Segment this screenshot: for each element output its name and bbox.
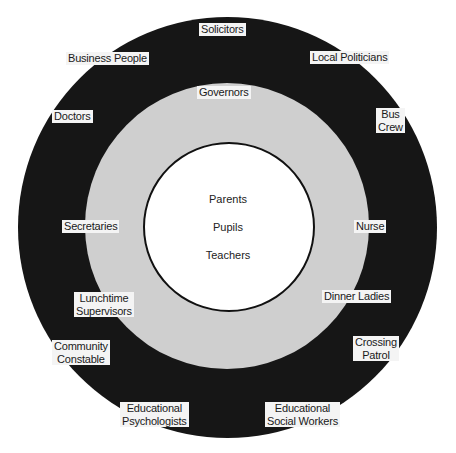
- label-educational-social-workers: Educational Social Workers: [265, 402, 340, 427]
- label-local-politicians: Local Politicians: [310, 51, 389, 64]
- inner-item-pupils: Pupils: [178, 221, 278, 233]
- label-line: Crossing: [355, 336, 397, 349]
- label-community-constable: Community Constable: [52, 340, 110, 365]
- label-line: Patrol: [355, 349, 397, 362]
- label-nurse: Nurse: [354, 220, 386, 233]
- inner-item-teachers: Teachers: [178, 249, 278, 261]
- label-governors: Governors: [197, 86, 251, 99]
- label-business-people: Business People: [66, 52, 149, 65]
- label-doctors: Doctors: [52, 110, 93, 123]
- label-line: Psychologists: [122, 415, 187, 428]
- label-line: Lunchtime: [76, 292, 132, 305]
- label-line: Constable: [54, 353, 108, 366]
- label-line: Educational: [122, 402, 187, 415]
- label-line: Community: [54, 340, 108, 353]
- label-bus-crew: Bus Crew: [376, 108, 405, 133]
- label-dinner-ladies: Dinner Ladies: [322, 290, 391, 303]
- label-solicitors: Solicitors: [199, 23, 246, 36]
- label-lunchtime-supervisors: Lunchtime Supervisors: [74, 292, 134, 317]
- label-line: Educational: [267, 402, 338, 415]
- label-line: Supervisors: [76, 305, 132, 318]
- label-secretaries: Secretaries: [62, 220, 119, 233]
- label-line: Social Workers: [267, 415, 338, 428]
- stakeholder-diagram: Parents Pupils Teachers Governors Secret…: [0, 0, 456, 453]
- label-educational-psychologists: Educational Psychologists: [120, 402, 189, 427]
- label-line: Crew: [378, 121, 403, 134]
- inner-item-parents: Parents: [178, 193, 278, 205]
- label-crossing-patrol: Crossing Patrol: [353, 336, 399, 361]
- label-line: Bus: [378, 108, 403, 121]
